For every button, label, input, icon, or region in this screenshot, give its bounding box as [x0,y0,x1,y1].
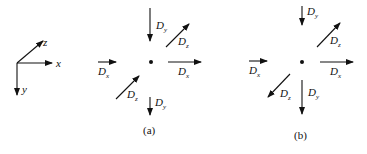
dx-left-label: Dx [97,65,110,80]
panel-b: Dy Dz Dx Dx Dz Dy (b) [248,5,353,142]
dy-top-label: Dy [306,5,319,20]
center-point [149,60,153,64]
dx-right-label: Dx [329,65,342,80]
dy-top-label: Dy [155,19,168,34]
diagram-svg: z x y Dy Dz Dx Dx Dz Dy (a) Dy Dz Dx Dx [0,0,367,154]
x-axis-label: x [55,57,61,69]
diagram-canvas: z x y Dy Dz Dx Dx Dz Dy (a) Dy Dz Dx Dx [0,0,367,154]
panel-a: Dy Dz Dx Dx Dz Dy (a) [97,8,201,137]
dy-bottom-label: Dy [154,96,167,111]
dy-bottom-label: Dy [307,86,320,101]
z-axis-arrow [17,41,43,63]
center-point [300,60,304,64]
dx-right-label: Dx [177,65,190,80]
dz-top-label: Dz [177,35,189,50]
z-axis-label: z [42,36,48,48]
dx-left-label: Dx [248,64,261,79]
dz-top-label: Dz [329,34,341,49]
coordinate-axes: z x y [17,36,61,95]
dz-bottom-label: Dz [126,88,138,103]
caption-a: (a) [143,124,156,137]
dz-bottom-label: Dz [279,87,291,102]
caption-b: (b) [294,129,307,142]
y-axis-label: y [21,83,27,95]
